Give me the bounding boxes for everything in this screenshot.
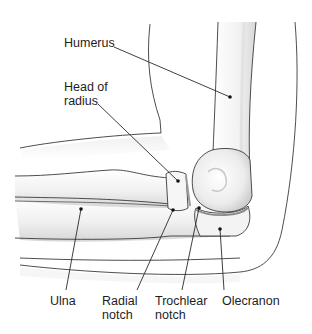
humeral-condyle	[192, 148, 252, 212]
elbow-anatomy-diagram: Humerus Head of radius Ulna Radial notch…	[0, 0, 312, 334]
upper-arm-skin	[20, 22, 297, 283]
label-olecranon: Olecranon	[222, 294, 280, 308]
label-humerus: Humerus	[64, 36, 115, 50]
label-ulna: Ulna	[50, 294, 76, 308]
radius-bone	[15, 170, 170, 208]
label-head-of-radius: Head of radius	[64, 80, 108, 108]
label-trochlear-notch: Trochlear notch	[155, 294, 207, 322]
anatomy-illustration	[0, 0, 312, 334]
label-radial-notch: Radial notch	[102, 294, 137, 322]
radial-head	[166, 171, 190, 210]
leader-humerus	[114, 47, 230, 97]
